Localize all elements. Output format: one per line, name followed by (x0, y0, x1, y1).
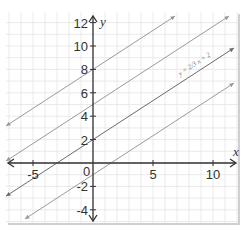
y-tick-label: -2 (76, 179, 88, 194)
y-tick-label: 4 (81, 109, 88, 124)
y-tick-label: 12 (74, 16, 88, 31)
y-tick-label: 10 (74, 39, 88, 54)
grid (6, 12, 240, 225)
origin-label: 0 (83, 164, 90, 179)
x-axis-label: x (232, 144, 239, 159)
y-tick-label: -4 (76, 203, 88, 218)
y-tick-label: 6 (81, 86, 88, 101)
y-tick-label: 8 (81, 62, 88, 77)
x-tick-label: 5 (149, 167, 156, 182)
coordinate-plane: -5510-4-224681012 x y 0 y = 2/3 x + 2 (0, 0, 249, 233)
x-tick-label: -5 (27, 167, 39, 182)
y-tick-label: 2 (81, 133, 88, 148)
x-tick-label: 10 (206, 167, 220, 182)
y-axis-label: y (98, 14, 106, 29)
